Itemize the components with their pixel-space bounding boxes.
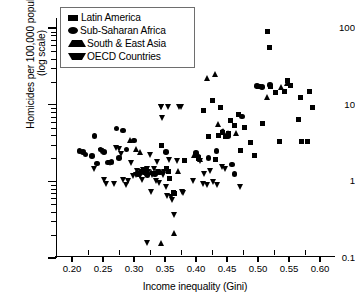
data-point (252, 153, 257, 158)
x-tick-major (195, 256, 196, 262)
data-point (310, 105, 315, 110)
data-point (174, 158, 180, 164)
data-point (98, 148, 104, 154)
data-point (120, 128, 126, 134)
data-point (206, 134, 211, 139)
data-point (161, 169, 167, 175)
data-point (298, 95, 303, 100)
data-point (305, 139, 310, 144)
data-point (190, 178, 196, 184)
data-point (147, 152, 153, 158)
data-point (214, 148, 220, 154)
data-point (171, 212, 177, 218)
data-point (128, 160, 134, 166)
data-point (180, 190, 186, 196)
data-point (158, 240, 164, 246)
y-axis-label-line1: Homicides per 100,000 population (25, 0, 36, 129)
data-point (238, 148, 243, 153)
data-point (92, 133, 98, 139)
legend-label: South & East Asia (87, 38, 166, 49)
data-point (284, 80, 290, 86)
legend-item-sub-saharan-africa: Sub-Saharan Africa (67, 24, 189, 37)
data-point (242, 125, 247, 130)
data-point (114, 126, 120, 132)
x-tick-major (257, 256, 258, 262)
data-point (232, 123, 237, 128)
data-point (159, 143, 164, 148)
y-tick-major (48, 181, 56, 182)
y-tick-major (48, 257, 56, 258)
data-point (264, 94, 270, 100)
data-point (267, 82, 273, 88)
data-point (166, 157, 172, 163)
data-point (273, 90, 278, 95)
data-point (267, 45, 272, 50)
data-point (248, 140, 253, 145)
x-tick-major (164, 256, 165, 262)
x-tick-major (102, 256, 103, 262)
data-point (156, 180, 162, 186)
data-point (307, 89, 312, 94)
data-point (210, 98, 215, 103)
data-point (154, 159, 160, 165)
x-tick-major (288, 256, 289, 262)
data-point (165, 104, 171, 110)
legend-label: OECD Countries (87, 51, 161, 62)
data-point (163, 184, 169, 190)
data-point (163, 149, 169, 155)
data-point (103, 181, 109, 187)
data-point (265, 29, 270, 34)
data-point (182, 158, 187, 163)
data-point (89, 153, 95, 159)
data-point (148, 189, 154, 195)
circle-marker-icon (68, 27, 78, 34)
data-point (213, 157, 218, 162)
x-tick-major (226, 256, 227, 262)
triangle-up-marker-icon (68, 40, 86, 47)
legend-label: Latin America (81, 12, 141, 23)
data-point (175, 168, 181, 174)
data-point (206, 155, 212, 161)
data-point (169, 197, 175, 203)
data-point (222, 166, 228, 172)
data-point (233, 130, 239, 136)
data-point (259, 84, 265, 90)
data-point (237, 184, 243, 190)
data-point (111, 181, 117, 187)
data-point (167, 176, 172, 181)
triangle-down-marker-icon (68, 53, 86, 60)
data-point (127, 137, 133, 143)
x-tick-major (71, 256, 72, 262)
x-tick-label: 0.60 (300, 263, 340, 274)
data-point (178, 104, 184, 110)
scatter-chart-figure: Homicides per 100,000 population (log sc… (0, 0, 355, 302)
data-point (204, 182, 210, 188)
y-axis-label-line2: (log scale) (36, 0, 47, 153)
data-point (207, 168, 213, 174)
data-point (229, 162, 235, 168)
x-axis-label: Income inequality (Gini) (56, 281, 334, 292)
data-point (107, 160, 113, 166)
data-point (296, 117, 301, 122)
x-tick-major (319, 256, 320, 262)
square-marker-icon (68, 15, 78, 21)
data-point (212, 71, 218, 77)
data-point (214, 182, 220, 188)
data-point (83, 152, 89, 158)
data-point (299, 139, 304, 144)
data-point (197, 158, 203, 164)
data-point (204, 75, 210, 81)
legend-label: Sub-Saharan Africa (80, 25, 166, 36)
data-point (201, 171, 207, 177)
legend-item-latin-america: Latin America (67, 11, 189, 24)
data-point (124, 147, 130, 153)
chart-legend: Latin America Sub-Saharan Africa South &… (60, 7, 195, 68)
data-point (137, 149, 143, 155)
data-point (260, 121, 265, 126)
legend-item-oecd-countries: OECD Countries (67, 50, 189, 63)
x-tick-major (133, 256, 134, 262)
y-axis-label: Homicides per 100,000 population (log sc… (25, 0, 47, 153)
data-point (232, 171, 238, 177)
y-tick-major (48, 104, 56, 105)
data-point (277, 139, 282, 144)
